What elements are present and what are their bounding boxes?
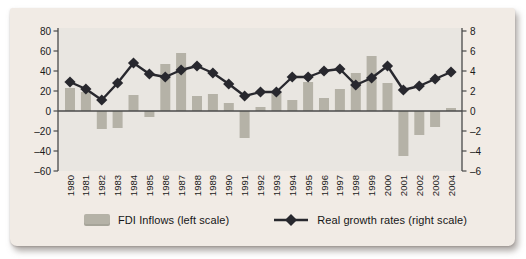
x-label-1996: 1996	[319, 175, 330, 196]
x-label-1993: 1993	[271, 175, 282, 196]
bar-1981	[81, 92, 91, 111]
bar-1994	[287, 100, 297, 111]
bar-1995	[303, 82, 313, 111]
bar-1989	[208, 94, 218, 111]
right-tick-label-6: 6	[470, 46, 476, 57]
x-label-1982: 1982	[96, 175, 107, 196]
x-label-1989: 1989	[207, 175, 218, 196]
x-label-1986: 1986	[160, 175, 171, 196]
right-tick-label--4: –4	[470, 146, 482, 157]
bar-1988	[192, 96, 202, 111]
right-tick-label--2: –2	[470, 126, 482, 137]
x-label-1995: 1995	[303, 175, 314, 196]
x-label-1985: 1985	[144, 175, 155, 196]
bar-1991	[240, 111, 250, 138]
left-tick-label--20: –20	[34, 126, 51, 137]
bar-2002	[414, 111, 424, 135]
x-label-1992: 1992	[255, 175, 266, 196]
bar-1987	[176, 53, 186, 111]
fdi-bar-swatch-icon	[84, 214, 110, 226]
legend-label-fdi: FDI Inflows (left scale)	[118, 214, 229, 226]
x-label-1988: 1988	[192, 175, 203, 196]
left-tick-label-80: 80	[40, 26, 52, 37]
bar-2000	[383, 83, 393, 111]
left-tick-label-0: 0	[45, 106, 51, 117]
swatch-diamond	[285, 214, 297, 226]
left-tick-label-60: 60	[40, 46, 52, 57]
bar-2001	[398, 111, 408, 156]
x-label-1987: 1987	[176, 175, 187, 196]
right-tick-label--6: –6	[470, 166, 482, 177]
legend: FDI Inflows (left scale) Real growth rat…	[84, 211, 467, 229]
bar-1982	[97, 111, 107, 129]
right-tick-label-4: 4	[470, 66, 476, 77]
right-tick-label-0: 0	[470, 106, 476, 117]
x-label-1981: 1981	[80, 175, 91, 196]
bar-1986	[160, 64, 170, 111]
bar-1983	[113, 111, 123, 128]
left-tick-label--60: –60	[34, 166, 51, 177]
x-label-1998: 1998	[350, 175, 361, 196]
left-tick-label-20: 20	[40, 86, 52, 97]
bar-1996	[319, 98, 329, 111]
x-label-2000: 2000	[382, 175, 393, 196]
bar-1984	[129, 95, 139, 111]
x-label-1983: 1983	[112, 175, 123, 196]
bar-1998	[351, 73, 361, 111]
legend-item-growth: Real growth rates (right scale)	[273, 213, 467, 227]
bar-1997	[335, 89, 345, 111]
x-label-1999: 1999	[366, 175, 377, 196]
legend-item-fdi: FDI Inflows (left scale)	[84, 214, 229, 226]
legend-label-growth: Real growth rates (right scale)	[317, 214, 467, 226]
bar-1980	[65, 88, 75, 111]
growth-line-diamond-swatch-icon	[273, 213, 309, 227]
x-label-1980: 1980	[65, 175, 76, 196]
x-label-2001: 2001	[398, 175, 409, 196]
x-label-2004: 2004	[446, 175, 457, 196]
x-label-1994: 1994	[287, 175, 298, 196]
bar-2003	[430, 111, 440, 127]
x-label-1991: 1991	[239, 175, 250, 196]
right-tick-label-8: 8	[470, 26, 476, 37]
left-tick-label-40: 40	[40, 66, 52, 77]
bar-1985	[144, 111, 154, 117]
x-label-2002: 2002	[414, 175, 425, 196]
left-tick-label--40: –40	[34, 146, 51, 157]
x-label-1990: 1990	[223, 175, 234, 196]
x-label-2003: 2003	[430, 175, 441, 196]
bar-1990	[224, 103, 234, 111]
x-label-1984: 1984	[128, 175, 139, 196]
figure-card: 806040200–20–40–6086420–2–4–619801981198…	[10, 8, 515, 246]
right-tick-label-2: 2	[470, 86, 476, 97]
x-label-1997: 1997	[334, 175, 345, 196]
